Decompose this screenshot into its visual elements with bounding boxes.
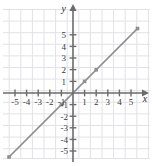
y-axis-label: y xyxy=(61,3,67,14)
grid-horizontal xyxy=(3,10,150,159)
x-tick-label-4: 4 xyxy=(117,97,122,107)
graph-figure: -5 -4 -3 -2 -1 1 2 3 4 5 5 4 3 2 1 -1 -2… xyxy=(0,0,152,166)
x-tick-label-2: 2 xyxy=(94,97,99,107)
y-tick-label--2: -2 xyxy=(61,112,69,122)
x-tick-label--3: -3 xyxy=(34,97,42,107)
x-axis-label: x xyxy=(142,93,148,104)
y-tick-label-5: 5 xyxy=(62,30,67,40)
y-tick-label--1: -1 xyxy=(61,100,69,110)
y-tick-label--4: -4 xyxy=(61,135,69,145)
x-tick-label-3: 3 xyxy=(106,97,111,107)
y-tick-label-3: 3 xyxy=(62,53,67,63)
line-end-marker-upper xyxy=(136,27,140,31)
y-tick-label--5: -5 xyxy=(61,146,69,156)
axes xyxy=(3,4,149,162)
y-tick-label-1: 1 xyxy=(62,77,67,87)
y-axis-arrow xyxy=(69,4,76,11)
x-tick-label--4: -4 xyxy=(23,97,31,107)
data-point-1-1 xyxy=(83,80,87,84)
data-point-2-2 xyxy=(94,68,98,72)
coordinate-plane-svg: -5 -4 -3 -2 -1 1 2 3 4 5 5 4 3 2 1 -1 -2… xyxy=(0,0,152,166)
y-tick-label-2: 2 xyxy=(62,65,67,75)
x-tick-label-1: 1 xyxy=(82,97,87,107)
y-tick-label-4: 4 xyxy=(62,42,67,52)
x-tick-label--2: -2 xyxy=(46,97,54,107)
grid-lines xyxy=(3,10,150,159)
y-tick-label--3: -3 xyxy=(61,123,69,133)
line-end-marker-lower xyxy=(7,155,11,159)
x-tick-label-5: 5 xyxy=(129,97,134,107)
x-tick-label--5: -5 xyxy=(11,97,19,107)
